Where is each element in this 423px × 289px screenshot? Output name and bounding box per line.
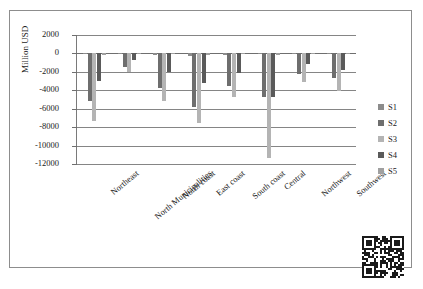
- bar: [292, 53, 296, 54]
- x-axis-label: East coast: [214, 168, 247, 198]
- bar: [137, 53, 141, 54]
- legend-swatch-icon: [378, 152, 384, 158]
- legend-item[interactable]: S1: [378, 99, 418, 115]
- bar: [311, 53, 315, 54]
- bar: [337, 53, 341, 91]
- x-axis-label: Northwest: [319, 168, 353, 198]
- legend-item[interactable]: S4: [378, 147, 418, 163]
- legend-item[interactable]: S5: [378, 163, 418, 179]
- bar: [197, 53, 201, 123]
- x-axis-label: Central: [282, 168, 308, 192]
- bar-group: [251, 35, 286, 164]
- x-axis-label: Northeast: [109, 168, 141, 197]
- bar: [123, 53, 127, 67]
- bar: [306, 53, 310, 63]
- y-axis-tick-label: -8000: [13, 122, 59, 131]
- bar: [237, 53, 241, 72]
- gridline: [77, 164, 356, 165]
- bar: [171, 53, 175, 54]
- bar: [167, 53, 171, 71]
- bar: [267, 53, 271, 158]
- bar-group: [286, 35, 321, 164]
- bar: [327, 53, 331, 54]
- y-axis-tick-label: 2000: [13, 30, 59, 39]
- bar: [127, 53, 131, 71]
- chart-frame: Million USD NortheastNorth Municipalitie…: [9, 10, 412, 268]
- bar-group: [112, 35, 147, 164]
- bar: [341, 53, 345, 70]
- bar: [192, 53, 196, 106]
- bar: [232, 53, 236, 96]
- bar: [102, 53, 106, 55]
- bar: [118, 53, 122, 54]
- y-axis-tick-label: -4000: [13, 85, 59, 94]
- y-axis-tick-label: -6000: [13, 104, 59, 113]
- y-axis-tick-label: -12000: [13, 159, 59, 168]
- chart-legend: S1S2S3S4S5: [378, 99, 418, 179]
- bar: [346, 53, 350, 54]
- y-axis-tick-label: -2000: [13, 67, 59, 76]
- legend-item[interactable]: S3: [378, 131, 418, 147]
- legend-label: S3: [388, 135, 397, 144]
- legend-label: S2: [388, 119, 397, 128]
- legend-swatch-icon: [378, 168, 384, 174]
- bar: [227, 53, 231, 85]
- bar: [297, 53, 301, 73]
- bar: [332, 53, 336, 78]
- legend-label: S4: [388, 151, 397, 160]
- bar-group: [182, 35, 217, 164]
- bar: [302, 53, 306, 82]
- bar: [202, 53, 206, 82]
- bar: [83, 53, 87, 54]
- legend-swatch-icon: [378, 104, 384, 110]
- figure-caption: [0, 272, 423, 288]
- legend-item[interactable]: S2: [378, 115, 418, 131]
- figure-container: Million USD NortheastNorth Municipalitie…: [0, 0, 423, 289]
- bar: [132, 53, 136, 59]
- bar-group: [147, 35, 182, 164]
- bar: [153, 53, 157, 54]
- bar: [188, 53, 192, 55]
- plot-area: [76, 35, 355, 164]
- legend-label: S5: [388, 167, 397, 176]
- bar-group: [321, 35, 356, 164]
- y-axis-tick-label: 0: [13, 48, 59, 57]
- bar: [97, 53, 101, 81]
- bar: [162, 53, 166, 101]
- bar: [158, 53, 162, 88]
- bar: [262, 53, 266, 96]
- bar: [92, 53, 96, 120]
- y-axis-tick-label: -10000: [13, 141, 59, 150]
- bar-group: [217, 35, 252, 164]
- bars-group: [77, 35, 356, 164]
- bar: [276, 53, 280, 54]
- bar-group: [77, 35, 112, 164]
- bar: [223, 53, 227, 54]
- page-header-partial: [0, 0, 423, 8]
- x-axis-labels: NortheastNorth MunicipalitiesNorth coast…: [76, 166, 366, 226]
- y-axis-tick: [72, 164, 77, 165]
- legend-swatch-icon: [378, 136, 384, 142]
- bar: [206, 53, 210, 55]
- legend-swatch-icon: [378, 120, 384, 126]
- bar: [88, 53, 92, 101]
- bar: [241, 53, 245, 54]
- legend-label: S1: [388, 103, 397, 112]
- bar: [271, 53, 275, 96]
- bar: [258, 53, 262, 54]
